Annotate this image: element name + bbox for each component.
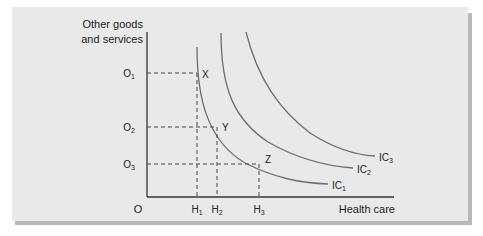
y-tick-o2: O2 <box>123 122 135 134</box>
x-tick-h2: H2 <box>211 204 222 216</box>
guide-lines <box>147 73 259 197</box>
indifference-curve-diagram: Other goods and services Health care O O… <box>0 0 483 236</box>
indifference-curve-ic3 <box>246 32 375 156</box>
indifference-curve-ic2 <box>221 33 353 168</box>
point-label-z: Z <box>265 154 271 165</box>
curve-label-ic2: IC2 <box>357 164 371 176</box>
curve-label-ic1: IC1 <box>332 180 346 192</box>
point-label-x: X <box>202 69 209 80</box>
y-tick-o3: O3 <box>123 159 135 171</box>
point-label-y: Y <box>222 122 229 133</box>
curve-label-ic3: IC3 <box>379 152 393 164</box>
origin-label: O <box>134 203 143 215</box>
y-axis-label-line1: Other goods <box>82 18 143 30</box>
x-axis-label: Health care <box>339 203 395 215</box>
y-axis-label-line2: and services <box>81 33 143 45</box>
y-tick-o1: O1 <box>123 68 135 80</box>
x-tick-h3: H3 <box>253 204 264 216</box>
x-tick-h1: H1 <box>191 204 202 216</box>
